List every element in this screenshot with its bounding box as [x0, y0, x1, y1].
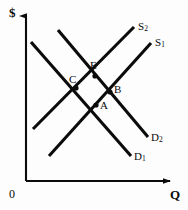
- supply-demand-plot: [0, 0, 188, 210]
- point-label-a: A: [100, 100, 108, 111]
- point-label-c: C: [69, 74, 76, 85]
- curve-label-text: D: [151, 131, 159, 143]
- curve-label-s2: S2: [138, 21, 148, 32]
- curve-label-subscript: 1: [142, 154, 146, 163]
- point-label-b: B: [114, 84, 121, 95]
- curve-label-subscript: 2: [159, 135, 163, 144]
- diagram-canvas: $ Q 0 S2S1D2D1 ECBA: [0, 0, 188, 210]
- point-marker-e: [92, 73, 97, 78]
- curve-label-d2: D2: [151, 132, 163, 143]
- curves-group: [31, 27, 151, 156]
- curve-label-subscript: 1: [161, 40, 165, 49]
- point-label-e: E: [90, 60, 97, 71]
- curve-label-subscript: 2: [144, 24, 148, 33]
- point-marker-b: [107, 89, 112, 94]
- x-axis-label: Q: [170, 188, 180, 201]
- axes-group: [26, 16, 170, 181]
- y-axis-label: $: [9, 6, 16, 19]
- point-marker-a: [93, 102, 98, 107]
- curve-label-s1: S1: [155, 37, 165, 48]
- origin-label: 0: [9, 188, 15, 200]
- point-marker-c: [73, 85, 78, 90]
- curve-label-d1: D1: [134, 151, 146, 162]
- curve-label-text: D: [134, 150, 142, 162]
